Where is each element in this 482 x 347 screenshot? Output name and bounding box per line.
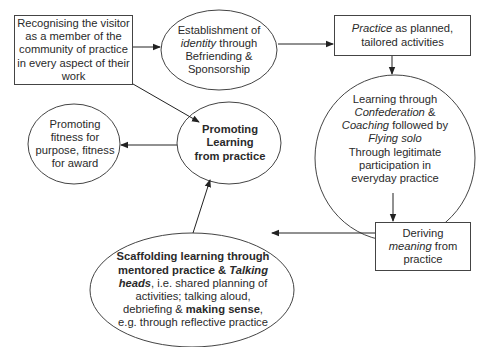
recognising-text: Recognising the visitor as a member of t… [14,15,133,85]
practice-text: Practice as planned, tailored activities [334,15,471,56]
arrow-scaffolding-to-promoting [193,180,210,233]
promoting-learning-text: Promoting Learning from practice [180,115,280,171]
deriving-text: Deriving meaning from practice [375,222,471,271]
learning-through-text: Learning through Confederation & Coachin… [320,87,470,191]
fitness-text: Promoting fitness for purpose, fitness f… [30,114,120,174]
identity-text: Establishment of identity through Befrie… [163,16,275,84]
scaffolding-text: Scaffolding learning through mentored pr… [100,240,286,340]
